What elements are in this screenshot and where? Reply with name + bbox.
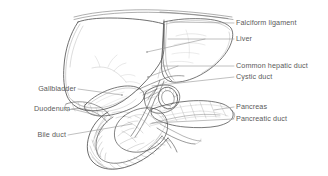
label-cystic-duct: Cystic duct (236, 73, 272, 81)
label-falciform-ligament: Falciform ligament (236, 19, 297, 27)
label-liver: Liver (236, 35, 252, 43)
label-common-hepatic-duct: Common hepatic duct (236, 62, 308, 70)
label-pancreatic-duct: Pancreatic duct (236, 115, 287, 123)
leader-dot-liver (146, 51, 147, 52)
leader-dot-common-hepatic-duct (147, 76, 148, 77)
label-bile-duct: Bile duct (14, 131, 66, 139)
label-gallbladder: Gallbladder (14, 85, 76, 93)
label-pancreas: Pancreas (236, 103, 267, 111)
label-duodenum: Duodenum (14, 105, 70, 113)
anatomy-figure: Falciform ligament Liver Common hepatic … (0, 0, 328, 176)
leader-dot-gallbladder (121, 94, 122, 95)
